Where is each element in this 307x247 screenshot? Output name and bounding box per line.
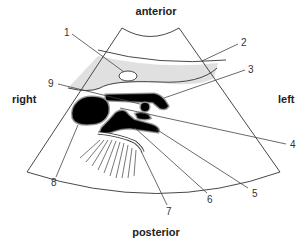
callout-8: 8 [51,177,57,188]
acoustic-shadow [80,140,136,178]
callout-4: 4 [290,139,296,150]
leader-7 [141,151,167,205]
leader-2 [202,44,238,61]
vessel-round [141,103,149,111]
label-anterior: anterior [136,5,178,17]
callout-7: 7 [166,206,172,217]
callout-9: 9 [48,78,54,89]
ultrasound-diagram: anterior posterior right left [0,0,307,247]
leader-8 [56,125,78,177]
label-left: left [278,93,295,105]
callout-1: 1 [64,27,70,38]
leader-5 [156,129,248,188]
callout-5: 5 [252,188,258,199]
callout-6: 6 [207,194,213,205]
callout-3: 3 [248,64,254,75]
callout-2: 2 [241,37,247,48]
label-right: right [12,93,37,105]
structure-1-oval [119,71,137,81]
sector-outline [27,28,280,194]
label-posterior: posterior [132,226,180,238]
